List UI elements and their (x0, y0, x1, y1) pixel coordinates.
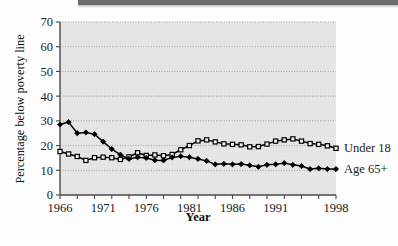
series-marker (205, 138, 209, 142)
y-axis-tick-label: 50 (41, 65, 54, 79)
y-axis-tick-label: 10 (41, 164, 54, 178)
x-axis-tick-label: 1986 (220, 201, 245, 215)
series-marker (58, 149, 62, 153)
series-marker (291, 137, 295, 141)
plot-area-background (60, 22, 336, 195)
series-marker (230, 142, 234, 146)
y-axis-title: Percentage below poverty line (13, 34, 27, 184)
series-marker (84, 158, 88, 162)
series-marker (161, 154, 165, 158)
y-axis-tick-label: 30 (41, 114, 54, 128)
series-marker (248, 145, 252, 149)
y-axis-tick-labels: 010203040506070 (41, 15, 54, 202)
series-marker (196, 139, 200, 143)
series-marker (75, 154, 79, 158)
poverty-line-chart: 010203040506070 196619711976198119861991… (0, 0, 398, 246)
series-marker (265, 142, 269, 146)
series-marker (239, 143, 243, 147)
series-marker (282, 138, 286, 142)
series-marker (118, 157, 122, 161)
series-marker (92, 156, 96, 160)
y-axis-tick-label: 60 (41, 40, 54, 54)
series-marker (179, 148, 183, 152)
series-marker (101, 155, 105, 159)
x-axis-title: Year (186, 210, 211, 224)
series-marker (213, 140, 217, 144)
series-marker (325, 144, 329, 148)
series-marker (274, 139, 278, 143)
series-marker (110, 156, 114, 160)
y-axis-tick-label: 20 (41, 139, 54, 153)
x-axis-tick-label: 1966 (48, 201, 73, 215)
series-marker (187, 143, 191, 147)
chart-figure: 010203040506070 196619711976198119861991… (0, 0, 398, 246)
series-marker (256, 144, 260, 148)
series-marker (153, 153, 157, 157)
x-axis-tick-label: 1976 (134, 201, 159, 215)
series-marker (299, 139, 303, 143)
y-axis-tick-label: 40 (41, 90, 54, 104)
series-marker (222, 142, 226, 146)
x-axis-tick-label: 1998 (324, 201, 349, 215)
y-axis-tick-label: 70 (41, 15, 54, 29)
series-label-age-65-plus: Age 65+ (344, 162, 388, 176)
series-marker (67, 152, 71, 156)
series-marker (317, 142, 321, 146)
series-marker (308, 141, 312, 145)
series-label-under-18: Under 18 (344, 141, 391, 155)
series-inline-labels: Under 18Age 65+ (344, 141, 391, 176)
series-marker (334, 146, 338, 150)
x-axis-tick-label: 1991 (263, 201, 288, 215)
x-axis-tick-label: 1971 (91, 201, 116, 215)
